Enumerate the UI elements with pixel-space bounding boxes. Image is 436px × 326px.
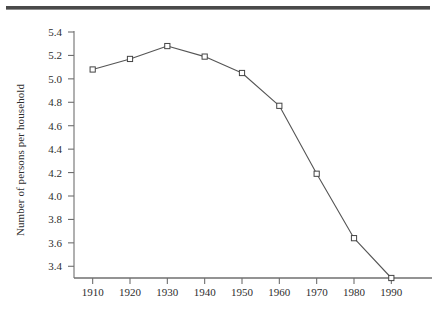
data-point-marker (165, 43, 170, 48)
data-point-marker (277, 103, 282, 108)
data-line (93, 46, 392, 278)
data-point-marker (239, 70, 244, 75)
data-point-marker (351, 236, 356, 241)
data-point-marker (389, 275, 394, 280)
data-point-marker (127, 56, 132, 61)
plot-canvas (0, 0, 436, 326)
data-point-marker (90, 67, 95, 72)
data-point-marker (202, 54, 207, 59)
chart-figure: Number of persons per household 3.43.63.… (0, 0, 436, 326)
data-point-marker (314, 171, 319, 176)
